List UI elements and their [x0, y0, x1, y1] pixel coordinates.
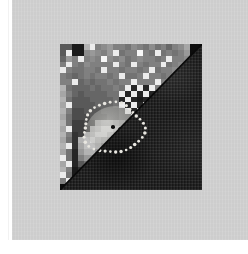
figure-root [0, 0, 248, 254]
left-gutter [0, 0, 12, 254]
diagonal-split-image-tile[interactable] [60, 44, 202, 190]
left-gutter-rule [8, 0, 9, 240]
bottom-gutter [0, 240, 248, 254]
